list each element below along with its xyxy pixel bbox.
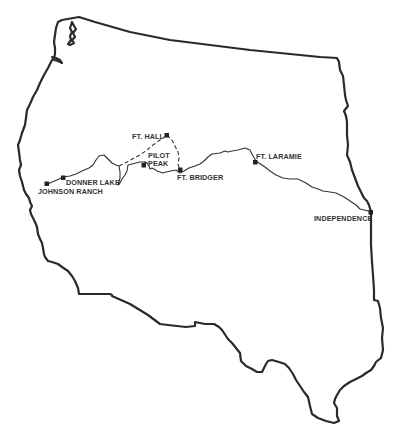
- label-pilot-peak-line2: PEAK: [148, 159, 169, 168]
- marker-donner-lake[interactable]: [61, 176, 66, 181]
- label-donner-lake: DONNER LAKE: [66, 178, 120, 187]
- label-ft-laramie: FT. LARAMIE: [256, 152, 302, 161]
- map: JOHNSON RANCH DONNER LAKE PILOT PEAK FT.…: [0, 0, 404, 437]
- puget-sound-detail: [68, 22, 76, 45]
- label-independence: INDEPENDENCE: [314, 214, 372, 223]
- label-johnson-ranch: JOHNSON RANCH: [38, 187, 103, 196]
- label-ft-hall: FT. HALL: [132, 132, 164, 141]
- marker-johnson-ranch[interactable]: [45, 182, 50, 187]
- marker-pilot-peak[interactable]: [142, 163, 147, 168]
- marker-ft-hall[interactable]: [165, 133, 170, 138]
- coastal-inlet-detail: [52, 57, 62, 63]
- pilot-peak-connector: [144, 162, 147, 163]
- marker-ft-bridger[interactable]: [178, 168, 183, 173]
- label-ft-bridger: FT. BRIDGER: [177, 173, 224, 182]
